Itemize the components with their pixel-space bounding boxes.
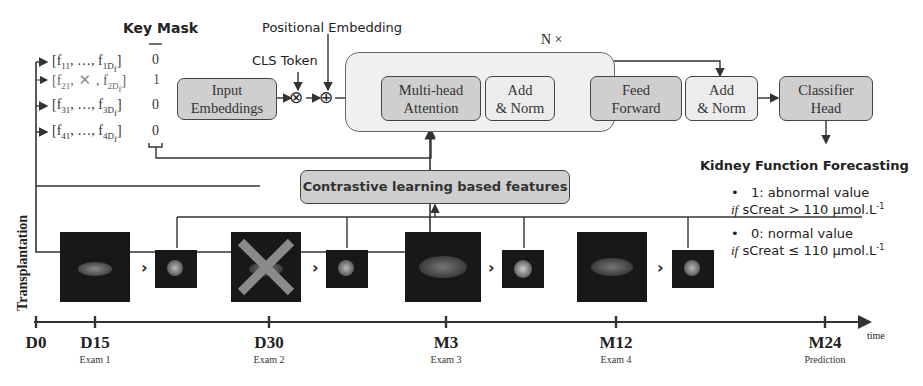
scan-image-exam-3: [405, 232, 481, 302]
feature-sub: 11: [61, 61, 70, 71]
output-condition-normal: if sCreat ≤ 110 µmol.L-1: [731, 243, 884, 259]
scan-image-exam-1: [60, 232, 130, 302]
multi-head-attention-block: Multi-headAttention: [381, 76, 481, 121]
block-label-line: & Norm: [697, 99, 746, 117]
bullet-icon: •: [731, 185, 739, 200]
mask-value-1: 0: [152, 52, 159, 68]
unit-exponent: -1: [876, 243, 884, 252]
n-times-label: N ×: [541, 32, 563, 48]
condition-text: sCreat ≤ 110 µmol.L: [742, 243, 876, 258]
tick-label-m12: M12: [599, 333, 632, 353]
feature-sub: 4D: [103, 131, 114, 141]
condition-text: sCreat > 110 µmol.L: [742, 202, 876, 217]
block-label-line: Head: [798, 99, 854, 117]
feature-sub: 2D: [108, 81, 119, 91]
missing-cross-icon: ✕: [74, 71, 96, 89]
feature-sub: 3D: [103, 105, 114, 115]
key-mask-title: Key Mask: [123, 20, 198, 36]
output-item-abnormal: • 1: abnormal value: [731, 185, 869, 200]
feature-row-3: [f31, …, f3Df]: [52, 97, 122, 118]
tick-label-m24: M24: [808, 333, 841, 353]
missing-cross-icon: [231, 232, 301, 302]
exam-label-4: Exam 4: [601, 354, 632, 365]
transplantation-label: Transplantation: [15, 208, 31, 318]
feature-sub: 41: [61, 131, 70, 141]
feature-subsub: f: [119, 84, 122, 94]
feature-subsub: f: [114, 134, 117, 144]
tick-label-m3: M3: [434, 333, 459, 353]
exam-label-1: Exam 1: [80, 354, 111, 365]
forecasting-title: Kidney Function Forecasting: [700, 158, 909, 173]
add-operator-icon: ⊕: [319, 88, 333, 106]
add-norm-block-1: Add& Norm: [485, 76, 555, 121]
crop-image-exam-2: [326, 250, 368, 288]
feed-forward-block: FeedForward: [590, 76, 682, 121]
multiply-operator-icon: ⊗: [289, 88, 303, 106]
block-label-line: Feed: [611, 81, 660, 99]
output-label: 1: abnormal value: [751, 185, 869, 200]
bullet-icon: •: [731, 226, 739, 241]
scan-image-exam-4: [577, 232, 647, 302]
time-axis-label: time: [867, 330, 885, 341]
mask-value-3: 0: [152, 97, 159, 113]
input-embeddings-block: InputEmbeddings: [177, 78, 277, 120]
contrastive-features-block: Contrastive learning based features: [300, 170, 570, 204]
feature-sub: 1D: [103, 61, 114, 71]
feature-subsub: f: [114, 108, 117, 118]
feature-sub: 21: [61, 81, 70, 91]
if-keyword: if: [731, 243, 738, 258]
chevron-right-icon: ›: [657, 258, 664, 277]
feature-row-4: [f41, …, f4Df]: [52, 123, 122, 144]
exam-label-3: Exam 3: [431, 354, 462, 365]
block-label-line: Add: [496, 81, 545, 99]
block-label-line: Classifier: [798, 81, 854, 99]
add-norm-block-2: Add& Norm: [685, 76, 758, 121]
mask-value-2: 1: [153, 72, 160, 88]
block-label-line: Attention: [399, 99, 463, 117]
scan-image-exam-2-missing: [231, 232, 301, 302]
feature-sub: 31: [61, 105, 70, 115]
output-item-normal: • 0: normal value: [731, 226, 853, 241]
crop-image-exam-1: [155, 250, 197, 288]
mask-value-4: 0: [152, 123, 159, 139]
if-keyword: if: [731, 202, 738, 217]
output-condition-abnormal: if sCreat > 110 µmol.L-1: [731, 202, 884, 218]
tick-label-d15: D15: [80, 333, 109, 353]
block-label-line: Add: [697, 81, 746, 99]
chevron-right-icon: ›: [488, 258, 495, 277]
output-label: 0: normal value: [751, 226, 853, 241]
tick-label-d30: D30: [254, 333, 283, 353]
tick-label-d0: D0: [26, 333, 47, 353]
crop-image-exam-4: [672, 250, 714, 288]
block-label-line: Multi-head: [399, 81, 463, 99]
positional-embedding-label: Positional Embedding: [262, 20, 402, 35]
block-label-line: Embeddings: [191, 99, 264, 117]
cls-token-label: CLS Token: [252, 53, 318, 68]
block-label-line: Input: [191, 81, 264, 99]
unit-exponent: -1: [876, 202, 884, 211]
crop-image-exam-3: [502, 250, 544, 288]
block-label-line: Forward: [611, 99, 660, 117]
prediction-label: Prediction: [804, 354, 845, 365]
feature-row-2-missing: [f21, ✕ , f2Df]: [52, 71, 126, 94]
block-label-line: & Norm: [496, 99, 545, 117]
classifier-head-block: ClassifierHead: [779, 76, 873, 121]
exam-label-2: Exam 2: [254, 354, 285, 365]
chevron-right-icon: ›: [141, 258, 148, 277]
chevron-right-icon: ›: [312, 258, 319, 277]
